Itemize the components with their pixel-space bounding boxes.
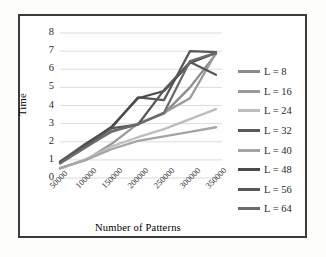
legend-swatch [238, 188, 260, 191]
series-line [60, 53, 216, 168]
y-tick-label: 2 [30, 136, 54, 146]
legend-label: L = 48 [264, 164, 292, 175]
legend-item[interactable]: L = 24 [238, 101, 310, 121]
legend-label: L = 56 [264, 184, 292, 195]
legend-swatch [238, 149, 260, 152]
legend-label: L = 40 [264, 145, 292, 156]
chart-frame: 012345678 500001000001500002000002500003… [18, 14, 307, 238]
y-tick-label: 1 [30, 154, 54, 164]
legend-swatch [238, 129, 260, 132]
legend-item[interactable]: L = 64 [238, 199, 310, 219]
legend-item[interactable]: L = 48 [238, 160, 310, 180]
chart-legend: L = 8L = 16L = 24L = 32L = 40L = 48L = 5… [238, 62, 310, 219]
legend-item[interactable]: L = 32 [238, 121, 310, 141]
legend-label: L = 16 [264, 86, 292, 97]
legend-label: L = 8 [264, 66, 286, 77]
legend-label: L = 64 [264, 203, 292, 214]
legend-item[interactable]: L = 16 [238, 82, 310, 102]
chart-area: 012345678 500001000001500002000002500003… [20, 16, 309, 240]
series-line [60, 62, 216, 162]
legend-swatch [238, 109, 260, 112]
y-tick-label: 6 [30, 63, 54, 73]
y-tick-label: 5 [30, 81, 54, 91]
legend-item[interactable]: L = 40 [238, 140, 310, 160]
y-axis-title: Time [17, 74, 28, 134]
legend-label: L = 32 [264, 125, 292, 136]
y-tick-label: 3 [30, 118, 54, 128]
legend-item[interactable]: L = 8 [238, 62, 310, 82]
legend-swatch [238, 70, 260, 73]
x-axis-title: Number of Patterns [40, 222, 236, 233]
gridlines [60, 33, 222, 178]
y-tick-label: 8 [30, 27, 54, 37]
y-tick-label: 4 [30, 100, 54, 110]
legend-swatch [238, 168, 260, 171]
y-tick-label: 7 [30, 45, 54, 55]
legend-swatch [238, 90, 260, 93]
legend-item[interactable]: L = 56 [238, 180, 310, 200]
figure-canvas: 012345678 500001000001500002000002500003… [0, 0, 326, 257]
legend-label: L = 24 [264, 105, 292, 116]
legend-swatch [238, 207, 260, 210]
